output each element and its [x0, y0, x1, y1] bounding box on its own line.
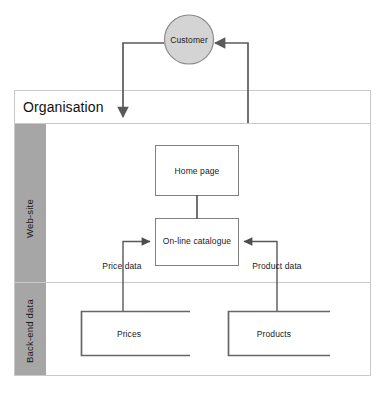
process-online-catalogue-box [156, 219, 239, 266]
diagram-vector-layer [0, 0, 390, 395]
band-web-site-fill [15, 124, 46, 282]
organisation-header-band [15, 91, 371, 124]
band-back-end-data-fill [15, 282, 46, 375]
process-home-page-box [156, 146, 239, 196]
diagram-canvas: Customer Organisation Web-site Back-end … [0, 0, 390, 395]
customer-actor-circle [165, 15, 214, 64]
